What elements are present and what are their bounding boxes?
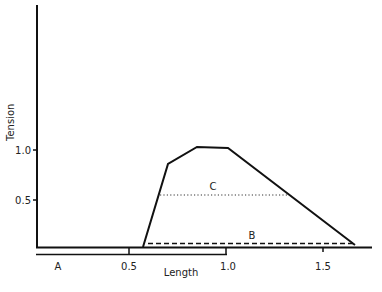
annotation-c: C xyxy=(210,181,217,192)
x-tick-label-2: 1.5 xyxy=(315,261,331,272)
x-tick-label-0: 0.5 xyxy=(121,261,137,272)
y-ticks: 1.0 0.5 xyxy=(15,145,37,206)
annotation-a: A xyxy=(55,261,62,272)
range-bracket-a xyxy=(36,248,227,255)
tension-length-chart: 1.0 0.5 Tension 0.5 1.0 1.5 A Length C B xyxy=(0,0,382,292)
x-axis-label: Length xyxy=(164,267,199,278)
x-tick-label-1: 1.0 xyxy=(220,261,236,272)
y-axis-label: Tension xyxy=(5,104,16,142)
annotation-b: B xyxy=(249,230,256,241)
y-tick-label-1: 1.0 xyxy=(15,145,31,156)
y-tick-label-0: 0.5 xyxy=(15,195,31,206)
